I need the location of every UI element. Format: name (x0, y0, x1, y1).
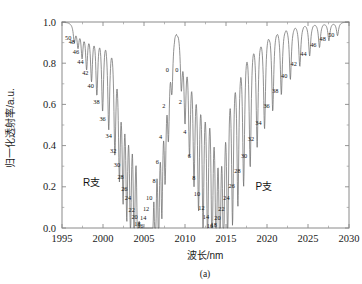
peak-index-label: 46 (73, 48, 79, 55)
peak-index-label: 6 (156, 158, 159, 165)
peak-index-label: 34 (255, 119, 262, 126)
y-tick-label: 0.2 (43, 181, 56, 192)
x-tick-label: 2025 (298, 233, 319, 244)
peak-index-label: 2 (179, 98, 182, 105)
p-branch-label: P支 (255, 181, 272, 192)
y-tick-label: 0.0 (43, 223, 56, 234)
peak-index-label: 0 (175, 66, 178, 73)
y-tick-label: 0.6 (43, 99, 56, 110)
peak-index-label: 4 (183, 128, 187, 135)
peak-index-label: 2 (162, 102, 165, 109)
peak-index-label: 30 (114, 161, 120, 168)
transmittance-spectrum-chart: 19952000200520102015202020252030 0.00.20… (0, 0, 362, 284)
x-tick-label: 2010 (175, 233, 196, 244)
peak-index-label: 8 (192, 174, 195, 181)
peak-index-label: 44 (77, 58, 84, 65)
spectrum-figure: 19952000200520102015202020252030 0.00.20… (0, 0, 362, 284)
x-tick-label: 2000 (93, 233, 114, 244)
peak-index-label: 48 (69, 38, 75, 45)
peak-index-label: 32 (110, 147, 116, 154)
peak-index-label: 14 (203, 213, 210, 220)
x-axis-title: 波长/nm (187, 249, 224, 261)
peak-index-label: 40 (281, 72, 287, 79)
peak-index-label: 0 (166, 66, 169, 73)
x-tick-labels: 19952000200520102015202020252030 (52, 233, 360, 244)
peak-index-label: 22 (129, 206, 135, 213)
peak-index-label: 10 (146, 194, 152, 201)
peak-index-label: 4 (159, 133, 163, 140)
y-tick-labels: 0.00.20.40.60.81.0 (43, 17, 57, 234)
peak-index-label: 40 (88, 82, 94, 89)
peak-index-label: 8 (152, 177, 155, 184)
x-tick-label: 2020 (257, 233, 278, 244)
y-tick-label: 0.4 (43, 140, 57, 151)
y-tick-label: 0.8 (43, 58, 56, 69)
peak-index-label: 12 (198, 204, 204, 211)
r-branch-label: R支 (83, 177, 100, 188)
peak-index-label: 36 (263, 102, 269, 109)
peak-index-label: 28 (234, 167, 240, 174)
peak-index-label: 36 (99, 115, 105, 122)
peak-index-label: 14 (140, 214, 147, 221)
peak-index-label: 12 (143, 205, 149, 212)
peak-index-label: 18 (211, 221, 217, 228)
peak-index-label: 10 (194, 190, 200, 197)
peak-index-label: 50 (328, 31, 334, 38)
peak-index-label: 26 (229, 182, 235, 189)
peak-index-label: 22 (218, 205, 224, 212)
peak-index-label: 24 (125, 194, 132, 201)
peak-index-label: 20 (214, 214, 220, 221)
y-axis-title: 归一化透射率/a.u. (4, 88, 16, 167)
peak-index-label: 44 (300, 50, 307, 57)
peak-index-label: 6 (188, 152, 191, 159)
x-tick-label: 2030 (339, 233, 360, 244)
x-tick-label: 1995 (52, 233, 73, 244)
x-tick-label: 2015 (216, 233, 237, 244)
peak-index-label: 46 (310, 41, 316, 48)
y-tick-label: 1.0 (43, 17, 56, 28)
peak-index-label: 28 (117, 173, 123, 180)
peak-index-label: 42 (291, 60, 297, 67)
peak-index-label: 48 (320, 35, 326, 42)
peak-index-label: 32 (248, 135, 254, 142)
x-tick-label: 2005 (134, 233, 155, 244)
figure-caption: (a) (200, 269, 211, 280)
peak-index-label: 24 (223, 194, 230, 201)
peak-index-label: 30 (241, 152, 247, 159)
peak-index-label: 42 (82, 69, 88, 76)
peak-index-label: 38 (93, 98, 99, 105)
peak-index-label: 34 (106, 132, 113, 139)
peak-index-label: 38 (272, 87, 278, 94)
peak-index-label: 16 (137, 222, 143, 229)
peak-index-label: 26 (121, 185, 127, 192)
